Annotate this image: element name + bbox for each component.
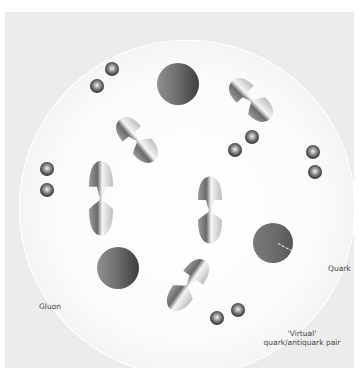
virtual-quark-bead [228,143,242,157]
gluon-left [88,159,114,237]
virtual-antiquark-bead [245,130,259,144]
gluon-center [197,175,223,245]
quark-top [157,63,199,105]
gluon-label: Gluon [39,302,61,311]
quark-right [253,223,293,263]
quark-label: Quark [328,264,351,273]
virtual-antiquark-bead [40,183,54,197]
virtual-antiquark-bead [105,62,119,76]
quark-left [97,247,139,289]
virtual-quark-bead [210,311,224,325]
virtual-antiquark-bead [231,303,245,317]
virtual-pair-label-line2: quark/antiquark pair [262,338,342,347]
virtual-quark-bead [40,162,54,176]
virtual-pair-label-line1: 'Virtual' [262,329,342,338]
virtual-pair-label: 'Virtual' quark/antiquark pair [262,329,342,347]
virtual-quark-bead [306,145,320,159]
virtual-antiquark-bead [308,165,322,179]
virtual-quark-bead [90,79,104,93]
